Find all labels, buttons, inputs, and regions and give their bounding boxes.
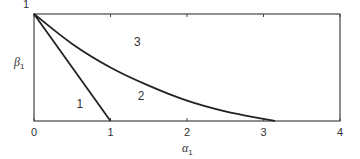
region-label: 1 — [77, 97, 84, 111]
chart: 01234 1 123 α1 β1 — [0, 0, 360, 159]
x-tick-label: 4 — [337, 126, 343, 138]
x-tick-label: 2 — [184, 126, 190, 138]
y-tick-label: 1 — [23, 0, 29, 10]
region-label: 2 — [138, 89, 145, 103]
x-tick-label: 1 — [107, 126, 113, 138]
x-tick-label: 0 — [31, 126, 37, 138]
x-axis-label: α1 — [182, 141, 193, 157]
series-linear-boundary — [34, 14, 111, 121]
y-axis-label: β1 — [13, 55, 25, 71]
region-label: 3 — [134, 35, 141, 49]
series-curved-boundary — [34, 14, 275, 121]
x-tick-label: 3 — [260, 126, 266, 138]
